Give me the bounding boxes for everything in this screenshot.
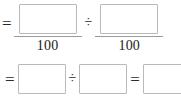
left-fraction-numerator-input[interactable] (19, 4, 77, 34)
answer-equation-row: = ÷ = (2, 62, 181, 96)
right-fraction-numerator-input[interactable] (100, 4, 158, 34)
answer-box-first-input[interactable] (18, 64, 66, 94)
answer-box-second-input[interactable] (79, 64, 127, 94)
fraction-equation-row: = 100 ÷ 100 (2, 2, 163, 54)
left-fraction: 100 (14, 4, 82, 53)
right-fraction: 100 (95, 4, 163, 53)
left-fraction-denominator: 100 (37, 37, 59, 53)
equals-sign-leading: = (2, 15, 12, 32)
equation-worksheet: = 100 ÷ 100 = ÷ = (0, 0, 181, 100)
right-fraction-denominator: 100 (118, 37, 140, 53)
division-sign-answers: ÷ (69, 72, 77, 86)
equals-sign-result: = (130, 71, 140, 88)
division-sign-fractions: ÷ (85, 16, 93, 30)
answer-box-result-input[interactable] (143, 64, 181, 94)
equals-sign-row2-leading: = (5, 71, 15, 88)
